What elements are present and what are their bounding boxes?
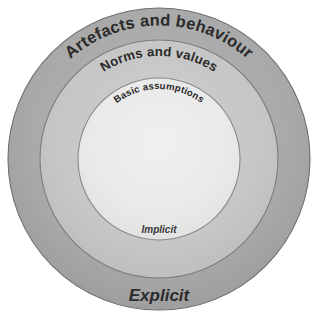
ring-inner-basic-assumptions: [78, 78, 240, 240]
label-implicit: Implicit: [141, 224, 177, 235]
culture-layers-diagram: Artefacts and behaviour Norms and values…: [0, 0, 320, 326]
concentric-circles-svg: Artefacts and behaviour Norms and values…: [0, 0, 320, 326]
label-explicit: Explicit: [129, 286, 191, 305]
